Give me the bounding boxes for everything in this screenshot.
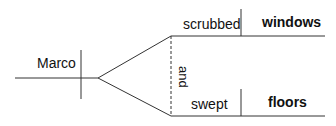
verb-word-lower: swept xyxy=(191,96,228,112)
conjunction-word: and xyxy=(176,66,191,88)
object-word-lower: floors xyxy=(268,94,307,110)
fork-lower xyxy=(98,78,171,116)
subject-word: Marco xyxy=(37,55,76,71)
verb-word-upper: scrubbed xyxy=(183,16,241,32)
object-word-upper: windows xyxy=(262,14,321,30)
fork-upper xyxy=(98,36,171,78)
